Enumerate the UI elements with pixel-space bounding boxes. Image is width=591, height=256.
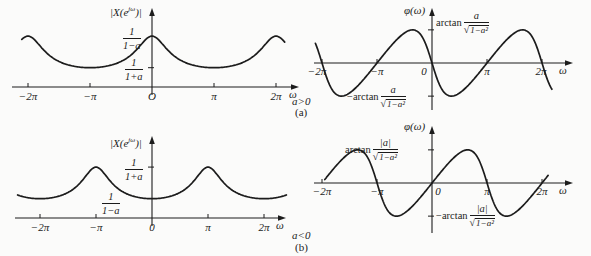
arctan-prefix: −arctan [436, 211, 470, 222]
y-axis-arrow [429, 126, 435, 134]
panel-a-label: (a) [295, 107, 307, 118]
arctan-fraction: a √1−a² [464, 10, 489, 36]
radicand: 1−a² [469, 25, 489, 35]
arctan-prefix: arctan [436, 18, 464, 29]
fraction-numerator: 1 [105, 191, 116, 203]
arctan-fraction: |a| √1−a² [373, 137, 398, 163]
fraction-numerator: a [388, 84, 399, 96]
x-tick-label: −2π [19, 91, 37, 102]
x-tick-label: π [484, 66, 490, 77]
fraction-numerator: a [471, 10, 482, 22]
x-tick-label-origin: O [148, 91, 156, 102]
fraction-numerator: 1 [126, 26, 137, 38]
x-tick-label: −π [371, 186, 384, 197]
x-tick-label-origin: 0 [149, 222, 155, 233]
level-label-arctan-negative: −arctan |a| √1−a² [436, 203, 495, 229]
x-tick-label: π [484, 186, 490, 197]
arctan-prefix: arctan [345, 145, 373, 156]
fraction-numerator: |a| [474, 203, 491, 215]
magnitude-axis-label: |X(ejω)| [110, 137, 142, 149]
magnitude-axis-label-pre: |X(e [110, 137, 128, 149]
level-label-one-over-one-plus-a: 1 1+a [125, 57, 143, 82]
level-label-one-over-one-plus-a: 1 1+a [125, 157, 143, 182]
fraction-numerator: |a| [377, 137, 394, 149]
x-tick-label: π [211, 91, 217, 102]
magnitude-axis-label: |X(ejω)| [110, 6, 142, 18]
fraction-numerator: 1 [128, 57, 139, 69]
y-axis-arrow [429, 8, 435, 16]
figure-canvas [0, 0, 591, 256]
fraction-denominator: 1+a [125, 69, 143, 82]
x-tick-label-origin: 0 [421, 66, 427, 77]
x-tick-label: 2π [258, 222, 269, 233]
level-label-arctan-positive: arctan a √1−a² [436, 10, 489, 36]
magnitude-axis-label-pre: |X(e [110, 6, 128, 18]
fraction-numerator: 1 [128, 157, 139, 169]
radicand: 1−a² [475, 218, 495, 228]
omega-axis-label: ω [276, 220, 284, 231]
magnitude-a-positive-curve [22, 36, 285, 68]
radicand: 1−a² [386, 99, 406, 109]
x-tick-label: −π [84, 91, 97, 102]
magnitude-axis-label-post: )| [135, 6, 142, 18]
radicand: 1−a² [378, 152, 398, 162]
arctan-fraction: a √1−a² [381, 84, 406, 110]
phase-axis-label: φ(ω) [404, 121, 425, 132]
fraction-denominator: 1−a [123, 38, 141, 51]
level-label-arctan-negative: −arctan a √1−a² [347, 84, 406, 110]
x-tick-label-origin: 0 [435, 186, 441, 197]
magnitude-axis-label-post: )| [135, 137, 142, 149]
x-tick-label: −π [90, 222, 103, 233]
omega-axis-label: ω [559, 185, 567, 196]
x-tick-label: −2π [308, 66, 326, 77]
level-label-arctan-positive: arctan |a| √1−a² [345, 137, 398, 163]
x-tick-label: −π [371, 66, 384, 77]
arctan-fraction: |a| √1−a² [470, 203, 495, 229]
arctan-prefix: −arctan [347, 92, 381, 103]
fraction-denominator: 1−a [102, 203, 120, 216]
figure-frequency-response: |X(ejω)| 1 1−a 1 1+a −2π −π O π 2π ω φ(ω… [0, 0, 591, 256]
omega-axis-label: ω [559, 65, 567, 76]
x-tick-label: 2π [270, 91, 281, 102]
x-tick-label: −2π [31, 222, 49, 233]
x-tick-label: 2π [536, 186, 547, 197]
y-axis-arrow [149, 8, 155, 16]
condition-b-label: a<0 [292, 230, 310, 241]
x-tick-label: π [205, 222, 211, 233]
level-label-one-over-one-minus-a: 1 1−a [102, 191, 120, 216]
panel-b-label: (b) [295, 242, 308, 253]
x-tick-label: 2π [535, 66, 546, 77]
phase-axis-label: φ(ω) [404, 5, 425, 16]
x-tick-label: −2π [313, 186, 331, 197]
y-axis-arrow [149, 136, 155, 144]
level-label-one-over-one-minus-a: 1 1−a [123, 26, 141, 51]
fraction-denominator: 1+a [125, 169, 143, 182]
